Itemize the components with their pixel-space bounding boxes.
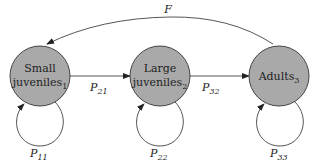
node-adults: Adults3 <box>249 46 309 106</box>
self-loop-2 <box>137 101 184 146</box>
svg-text:juveniles2: juveniles2 <box>131 76 188 91</box>
node-large-juveniles: Large juveniles2 <box>130 46 190 106</box>
node-small-juveniles: Small juveniles1 <box>10 46 70 106</box>
life-cycle-diagram: F P21 P32 P11 P22 P33 Small juveniles1 L… <box>0 0 317 166</box>
edge-label-P32: P32 <box>201 81 220 96</box>
edge-label-P11: P11 <box>29 147 48 162</box>
self-loop-3 <box>257 101 304 146</box>
svg-text:Small: Small <box>24 62 56 75</box>
edge-label-P22: P22 <box>149 147 168 162</box>
edge-label-F: F <box>163 3 172 16</box>
self-loop-1 <box>17 101 64 146</box>
svg-text:juveniles1: juveniles1 <box>11 76 68 91</box>
edge-label-P33: P33 <box>269 147 288 162</box>
edge-fecundity-3-1 <box>47 17 273 44</box>
edge-label-P21: P21 <box>89 81 108 96</box>
svg-text:Large: Large <box>144 62 177 75</box>
svg-text:Adults3: Adults3 <box>258 70 300 85</box>
